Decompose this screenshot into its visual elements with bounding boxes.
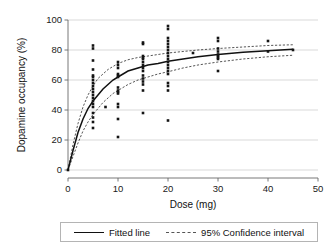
data-point — [92, 85, 95, 88]
data-point — [167, 37, 170, 40]
dopamine-occupancy-figure: 02040608010001020304050 Dopamine occupan… — [0, 0, 335, 252]
data-point — [92, 76, 95, 79]
data-point — [117, 67, 120, 70]
data-point — [217, 70, 220, 73]
data-point — [267, 40, 270, 43]
y-tick-label: 20 — [51, 134, 62, 145]
data-point — [217, 50, 220, 53]
scatter-plot-canvas: 02040608010001020304050 Dopamine occupan… — [0, 0, 335, 210]
data-point — [92, 59, 95, 62]
legend-entry-fitted-line: Fitted line — [74, 227, 150, 238]
data-point — [92, 103, 95, 106]
data-point — [117, 136, 120, 139]
legend-entry-confidence-interval: 95% Confidence interval — [166, 227, 304, 238]
y-axis-title: Dopamine occupancy (%) — [16, 38, 27, 153]
data-point — [92, 47, 95, 50]
data-point — [92, 106, 95, 109]
y-tick-label: 40 — [51, 104, 62, 115]
data-point — [167, 73, 170, 76]
data-point — [167, 40, 170, 43]
data-point — [142, 64, 145, 67]
fitted-line-path — [68, 49, 293, 170]
data-point — [92, 82, 95, 85]
data-point — [142, 43, 145, 46]
tick-marks-group — [65, 20, 319, 182]
x-tick-label: 0 — [65, 183, 70, 194]
data-point — [142, 89, 145, 92]
y-tick-label: 100 — [46, 14, 62, 25]
data-point — [117, 92, 120, 95]
data-point — [117, 118, 120, 121]
data-point — [167, 70, 170, 73]
data-point — [92, 127, 95, 130]
data-point — [92, 112, 95, 115]
data-point — [267, 50, 270, 53]
solid-line-swatch-icon — [74, 232, 104, 233]
data-point — [167, 89, 170, 92]
data-point — [92, 79, 95, 82]
data-point — [117, 103, 120, 106]
data-point — [92, 91, 95, 94]
x-axis-title: Dose (mg) — [170, 199, 217, 210]
data-point — [167, 55, 170, 58]
data-point — [117, 64, 120, 67]
gridlines-group — [68, 20, 318, 170]
x-tick-label: 50 — [313, 183, 324, 194]
data-point — [92, 88, 95, 91]
data-point — [167, 28, 170, 31]
data-point — [92, 94, 95, 97]
data-point — [167, 49, 170, 52]
dashed-line-swatch-icon — [166, 232, 196, 233]
x-tick-label: 30 — [213, 183, 224, 194]
data-point — [117, 86, 120, 89]
data-point — [104, 106, 107, 109]
data-point — [142, 58, 145, 61]
data-point — [142, 80, 145, 83]
data-point — [142, 67, 145, 70]
tick-labels-group: 02040608010001020304050 — [46, 14, 323, 194]
x-tick-label: 40 — [263, 183, 274, 194]
data-point — [92, 100, 95, 103]
confidence-interval-curves — [68, 45, 293, 170]
confidence-interval-curve — [68, 55, 293, 170]
data-point — [92, 121, 95, 124]
legend-label-confidence-interval: 95% Confidence interval — [201, 227, 304, 238]
data-point — [167, 46, 170, 49]
confidence-interval-curve — [68, 45, 293, 170]
data-point — [167, 64, 170, 67]
data-point — [142, 74, 145, 77]
data-point — [217, 58, 220, 61]
data-point — [167, 52, 170, 55]
x-tick-label: 20 — [163, 183, 174, 194]
data-point — [142, 83, 145, 86]
data-point — [117, 76, 120, 79]
data-point — [117, 61, 120, 64]
data-point — [217, 47, 220, 50]
data-point — [167, 43, 170, 46]
data-point — [217, 40, 220, 43]
axis-lines-group — [68, 20, 318, 178]
data-point — [142, 112, 145, 115]
data-point — [217, 37, 220, 40]
legend-label-fitted-line: Fitted line — [109, 227, 150, 238]
data-point — [167, 82, 170, 85]
data-points-group — [67, 25, 295, 172]
y-tick-label: 80 — [51, 44, 62, 55]
data-point — [92, 44, 95, 47]
fitted-line-curve — [68, 49, 293, 170]
data-point — [167, 119, 170, 122]
data-point — [292, 49, 295, 52]
data-point — [142, 70, 145, 73]
data-point — [142, 61, 145, 64]
data-point — [167, 58, 170, 61]
data-point — [167, 61, 170, 64]
x-tick-label: 10 — [113, 183, 124, 194]
data-point — [167, 85, 170, 88]
data-point — [92, 116, 95, 119]
data-point — [167, 25, 170, 28]
data-point — [67, 169, 70, 172]
data-point — [167, 67, 170, 70]
y-tick-label: 60 — [51, 74, 62, 85]
data-point — [92, 97, 95, 100]
data-point — [192, 52, 195, 55]
